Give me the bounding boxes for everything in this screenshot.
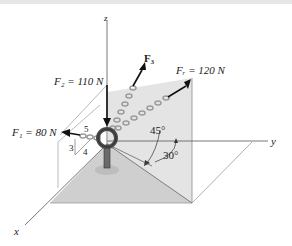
z-axis-label: z	[104, 14, 108, 23]
f1-label: F₁ = 80 N	[12, 127, 57, 138]
bolt-shank	[104, 148, 110, 168]
x-axis-label: x	[14, 226, 19, 237]
angle-30-label: 30°	[163, 150, 178, 161]
angle-45-label: 45°	[150, 125, 165, 136]
slope-hyp-label: 5	[84, 125, 89, 134]
force-diagram	[0, 0, 292, 246]
y-axis-label: y	[271, 136, 276, 147]
slope-rise-label: 3	[69, 144, 74, 153]
f2-label: F₂ = 110 N	[54, 76, 103, 87]
f3-label: F₃	[144, 53, 154, 64]
slope-run-label: 4	[83, 148, 88, 157]
fr-label: Fᵣ = 120 N	[176, 65, 225, 76]
